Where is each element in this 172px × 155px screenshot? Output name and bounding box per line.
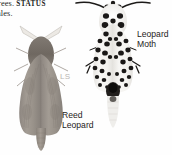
scale-note-label: LS — [60, 72, 70, 81]
body-text-line-1: rees. STATUS — [0, 0, 46, 8]
status-heading: STATUS — [16, 0, 46, 8]
caption-leopard-moth: Leopard Moth — [137, 29, 169, 49]
body-text-fragment: rees. — [0, 0, 14, 8]
caption-reed-leopard: Reed Leopard — [62, 110, 94, 130]
caption-leopard-moth-line-1: Leopard — [137, 29, 169, 39]
reed-leopard-moth-image — [8, 24, 74, 152]
caption-leopard-moth-line-2: Moth — [137, 39, 169, 49]
plate-figure-page: rees. STATUS ales. — [0, 0, 172, 155]
caption-reed-leopard-line-2: Leopard — [62, 120, 94, 130]
caption-reed-leopard-line-1: Reed — [62, 110, 94, 120]
body-text-line-2: ales. — [0, 9, 13, 18]
